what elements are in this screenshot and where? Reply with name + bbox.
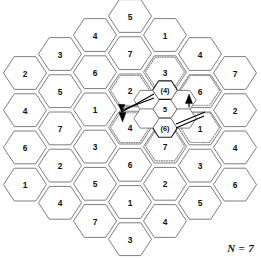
hex-cell: 4: [74, 19, 117, 52]
hex-cell-label: 4: [93, 31, 98, 41]
inner-cluster-label: (4): [160, 86, 170, 95]
hex-cell-label: 1: [163, 31, 168, 41]
hex-cell: 4: [144, 205, 187, 238]
hex-cell-label: 7: [163, 142, 168, 152]
hex-cell: 4: [39, 186, 82, 219]
hex-cell: 3: [39, 38, 82, 71]
hex-cell-label: 4: [128, 123, 133, 133]
hex-cell: 1: [4, 168, 47, 201]
hex-cell-label: 3: [198, 161, 203, 171]
hex-cell-label: 2: [233, 106, 238, 116]
hex-cell: 3: [74, 130, 117, 163]
hex-cell: 7: [39, 112, 82, 145]
hex-cell: 2: [144, 167, 187, 200]
hex-cell-label: 7: [58, 124, 63, 134]
hex-cell-label: 7: [128, 49, 133, 59]
hex-cell: 1: [109, 186, 152, 219]
hex-cell-label: 6: [23, 143, 28, 153]
hex-cell: 7: [74, 205, 117, 238]
hex-cell-label: 7: [93, 217, 98, 227]
hex-cell-label: 4: [23, 106, 28, 116]
hex-cell: 1: [144, 19, 187, 52]
hex-cell-label: 1: [198, 124, 203, 134]
hex-cell: 2: [4, 57, 47, 90]
hex-cell-label: 2: [163, 179, 168, 189]
hex-cell-label: 1: [93, 105, 98, 115]
figure-caption: N = 7: [227, 242, 254, 254]
hex-cell: 5: [39, 75, 82, 108]
hex-cell: 4: [214, 131, 257, 164]
hex-cell-label: 1: [23, 180, 28, 190]
hex-cell: 5: [179, 186, 222, 219]
hex-cell: 4: [4, 94, 47, 127]
hex-cell: 6: [109, 148, 152, 181]
hex-cell-label: 3: [58, 50, 63, 60]
hex-cell: 2: [214, 94, 257, 127]
hex-grid-diagram: 2461357244613575724613135724461357246(4)…: [0, 0, 261, 260]
hex-cell: 4: [179, 38, 222, 71]
hex-cell: 7: [214, 57, 257, 90]
hex-cell: 7: [109, 37, 152, 70]
hex-cell: 5: [74, 167, 117, 200]
hex-cell: 1: [74, 93, 117, 126]
hex-cell: 6: [74, 56, 117, 89]
hex-cell-label: 6: [198, 87, 203, 97]
hex-cell-label: 4: [198, 50, 203, 60]
hex-cell-label: 4: [233, 143, 238, 153]
hex-cell: 3: [109, 223, 152, 256]
hex-cell-label: 4: [163, 217, 168, 227]
hex-cell-label: 5: [93, 179, 98, 189]
hex-cell-label: 7: [233, 69, 238, 79]
inner-cluster-label: (6): [160, 124, 170, 133]
hex-cell-label: 3: [128, 235, 133, 245]
hex-cell: 5: [109, 0, 152, 32]
hex-cell-label: 5: [58, 87, 63, 97]
hex-cell-label: 2: [23, 69, 28, 79]
hex-cell-label: 2: [128, 86, 133, 96]
hex-cell: 6: [4, 131, 47, 164]
hex-cell-label: 6: [128, 160, 133, 170]
hex-cell-label: 5: [128, 12, 133, 22]
hex-cell-label: 3: [93, 142, 98, 152]
hex-cell-label: 6: [233, 180, 238, 190]
hex-cell-label: 5: [198, 198, 203, 208]
hex-cell-label: 4: [58, 198, 63, 208]
hex-cell: 2: [39, 149, 82, 182]
hex-cell: 3: [179, 149, 222, 182]
figure-canvas: 2461357244613575724613135724461357246(4)…: [0, 0, 261, 260]
hex-cell-label: 1: [128, 198, 133, 208]
hex-cell-label: 3: [163, 68, 168, 78]
hex-cell: 6: [214, 168, 257, 201]
hex-cell-label: 6: [93, 68, 98, 78]
hex-cell-label: 2: [58, 161, 63, 171]
inner-cluster-label: 5: [163, 105, 167, 114]
